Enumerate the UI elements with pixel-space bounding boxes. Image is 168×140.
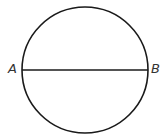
point-label-b: B [151, 62, 160, 76]
point-label-a: A [8, 62, 17, 76]
circle-diagram-svg [0, 0, 168, 140]
diagram-canvas: A B [0, 0, 168, 140]
